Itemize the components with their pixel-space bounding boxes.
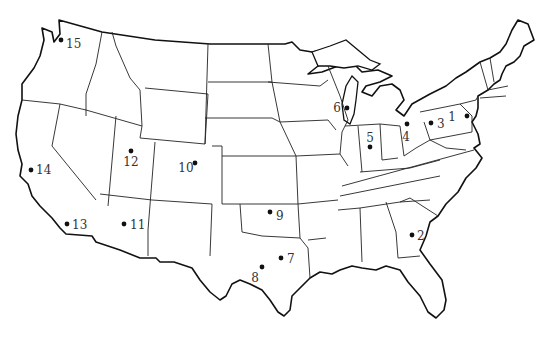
marker-dot-icon bbox=[465, 114, 470, 119]
city-markers: 123456789101211131415 bbox=[29, 37, 470, 285]
marker-dot-icon bbox=[59, 38, 64, 43]
lake-michigan bbox=[342, 76, 358, 124]
marker-label: 15 bbox=[66, 37, 81, 51]
marker-label: 2 bbox=[417, 229, 425, 243]
marker-label: 13 bbox=[72, 218, 87, 232]
marker-dot-icon bbox=[65, 222, 70, 227]
map-marker-15: 15 bbox=[59, 37, 82, 51]
marker-label: 11 bbox=[130, 218, 145, 232]
marker-label: 6 bbox=[333, 101, 341, 115]
map-marker-3: 3 bbox=[429, 117, 445, 131]
us-outline bbox=[16, 20, 534, 318]
marker-label: 8 bbox=[251, 271, 259, 285]
marker-label: 1 bbox=[448, 110, 456, 124]
marker-label: 12 bbox=[123, 155, 138, 169]
marker-dot-icon bbox=[345, 106, 350, 111]
map-marker-1: 1 bbox=[448, 110, 469, 124]
map-marker-12: 12 bbox=[123, 149, 138, 169]
marker-label: 14 bbox=[36, 163, 52, 177]
map-marker-10: 10 bbox=[178, 161, 197, 175]
marker-dot-icon bbox=[260, 265, 265, 270]
marker-label: 3 bbox=[437, 117, 445, 131]
marker-dot-icon bbox=[122, 222, 127, 227]
lake-superior bbox=[312, 40, 380, 70]
marker-dot-icon bbox=[405, 122, 410, 127]
us-map: 123456789101211131415 bbox=[0, 0, 538, 341]
marker-dot-icon bbox=[429, 121, 434, 126]
marker-dot-icon bbox=[368, 145, 373, 150]
marker-dot-icon bbox=[410, 233, 415, 238]
marker-dot-icon bbox=[29, 168, 34, 173]
marker-label: 4 bbox=[402, 130, 410, 144]
map-marker-2: 2 bbox=[410, 229, 425, 243]
marker-dot-icon bbox=[268, 210, 273, 215]
marker-label: 7 bbox=[287, 252, 295, 266]
map-marker-14: 14 bbox=[29, 163, 52, 177]
marker-label: 10 bbox=[178, 161, 193, 175]
map-marker-11: 11 bbox=[122, 218, 146, 232]
map-marker-4: 4 bbox=[402, 122, 410, 144]
map-marker-13: 13 bbox=[65, 218, 88, 232]
marker-label: 5 bbox=[366, 131, 374, 145]
map-marker-8: 8 bbox=[251, 265, 264, 285]
marker-dot-icon bbox=[279, 256, 284, 261]
marker-label: 9 bbox=[276, 209, 284, 223]
marker-dot-icon bbox=[129, 149, 134, 154]
map-marker-7: 7 bbox=[279, 252, 295, 266]
map-marker-9: 9 bbox=[268, 209, 284, 223]
map-marker-5: 5 bbox=[366, 131, 374, 149]
